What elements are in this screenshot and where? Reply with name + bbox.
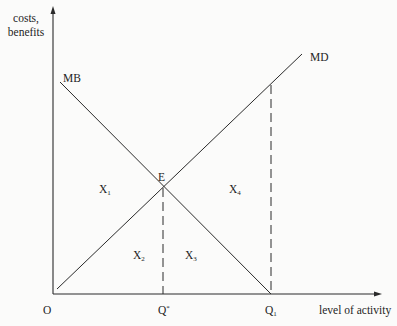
area-x3-label: X3 bbox=[185, 249, 197, 261]
mb-md-diagram: costs, benefits MB MD E X1 X4 X2 X3 O Q*… bbox=[0, 0, 397, 326]
area-x1-label: X1 bbox=[99, 183, 111, 195]
origin-label: O bbox=[43, 304, 51, 316]
md-curve bbox=[57, 54, 302, 289]
y-axis-label-line1: costs, bbox=[4, 11, 48, 25]
area-x2-label: X2 bbox=[133, 249, 145, 261]
diagram-graphics bbox=[0, 0, 397, 326]
mb-label: MB bbox=[63, 72, 81, 84]
md-label: MD bbox=[310, 51, 329, 63]
y-axis-label: costs, benefits bbox=[4, 11, 48, 39]
x-axis-label: level of activity bbox=[319, 304, 391, 316]
y-axis-arrow-icon bbox=[51, 6, 56, 14]
area-x4-label: X4 bbox=[229, 183, 241, 195]
y-axis-label-line2: benefits bbox=[4, 25, 48, 39]
equilibrium-label: E bbox=[158, 171, 165, 183]
x-axis-arrow-icon bbox=[374, 292, 382, 297]
q1-label: Q1 bbox=[265, 304, 277, 316]
q-star-label: Q* bbox=[158, 304, 170, 316]
